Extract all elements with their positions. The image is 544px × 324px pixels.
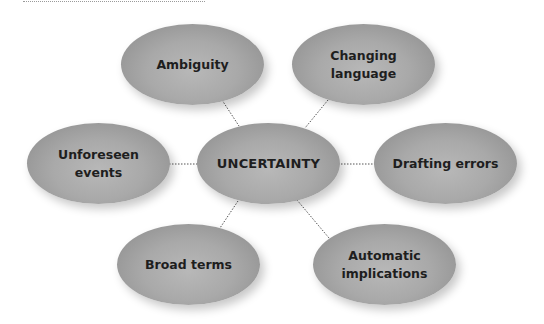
connector-ambiguity: [222, 100, 239, 126]
node-label: Broad terms: [145, 256, 232, 274]
node-ambiguity: Ambiguity: [121, 24, 264, 105]
node-label: Unforeseen events: [41, 146, 156, 182]
connector-automatic-implications: [297, 200, 329, 238]
connector-broad-terms: [220, 201, 238, 228]
node-label: Changing language: [330, 47, 397, 83]
node-changing-language: Changing language: [292, 24, 435, 105]
node-unforeseen-events: Unforeseen events: [27, 123, 170, 204]
center-label: UNCERTAINTY: [217, 155, 320, 173]
node-drafting-errors: Drafting errors: [374, 123, 517, 204]
node-label: Drafting errors: [393, 155, 499, 173]
node-label: Automatic implications: [342, 247, 428, 283]
node-label: Ambiguity: [156, 56, 228, 74]
node-automatic-implications: Automatic implications: [313, 224, 456, 305]
node-broad-terms: Broad terms: [117, 224, 260, 305]
connector-changing-language: [305, 100, 328, 128]
node-uncertainty-center: UNCERTAINTY: [197, 123, 340, 204]
